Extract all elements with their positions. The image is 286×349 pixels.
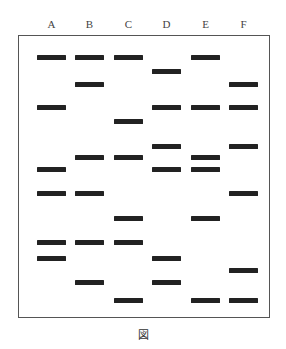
- band-b-4: [75, 191, 104, 196]
- band-f-1: [229, 82, 258, 87]
- band-b-2: [75, 82, 104, 87]
- band-d-2: [152, 105, 181, 110]
- lane-label-c: C: [114, 18, 143, 30]
- band-d-3: [152, 144, 181, 149]
- band-a-6: [37, 256, 66, 261]
- lane-label-e: E: [191, 18, 220, 30]
- band-c-4: [114, 216, 143, 221]
- band-e-1: [191, 55, 220, 60]
- gel-frame: [18, 35, 270, 318]
- lane-label-d: D: [152, 18, 181, 30]
- band-b-6: [75, 280, 104, 285]
- band-a-2: [37, 105, 66, 110]
- band-a-5: [37, 240, 66, 245]
- band-a-1: [37, 55, 66, 60]
- band-d-5: [152, 256, 181, 261]
- band-c-6: [114, 298, 143, 303]
- band-f-3: [229, 144, 258, 149]
- band-a-3: [37, 167, 66, 172]
- figure-caption: 図: [0, 326, 286, 342]
- band-c-1: [114, 55, 143, 60]
- band-f-6: [229, 298, 258, 303]
- band-f-4: [229, 191, 258, 196]
- band-f-2: [229, 105, 258, 110]
- band-e-2: [191, 105, 220, 110]
- band-b-1: [75, 55, 104, 60]
- band-e-3: [191, 155, 220, 160]
- band-c-2: [114, 119, 143, 124]
- lane-label-f: F: [229, 18, 258, 30]
- band-f-5: [229, 268, 258, 273]
- lane-label-b: B: [75, 18, 104, 30]
- band-e-4: [191, 167, 220, 172]
- band-b-3: [75, 155, 104, 160]
- band-c-3: [114, 155, 143, 160]
- band-c-5: [114, 240, 143, 245]
- lane-label-a: A: [37, 18, 66, 30]
- band-a-4: [37, 191, 66, 196]
- band-e-5: [191, 216, 220, 221]
- band-e-6: [191, 298, 220, 303]
- band-d-1: [152, 69, 181, 74]
- band-d-6: [152, 280, 181, 285]
- band-d-4: [152, 167, 181, 172]
- band-b-5: [75, 240, 104, 245]
